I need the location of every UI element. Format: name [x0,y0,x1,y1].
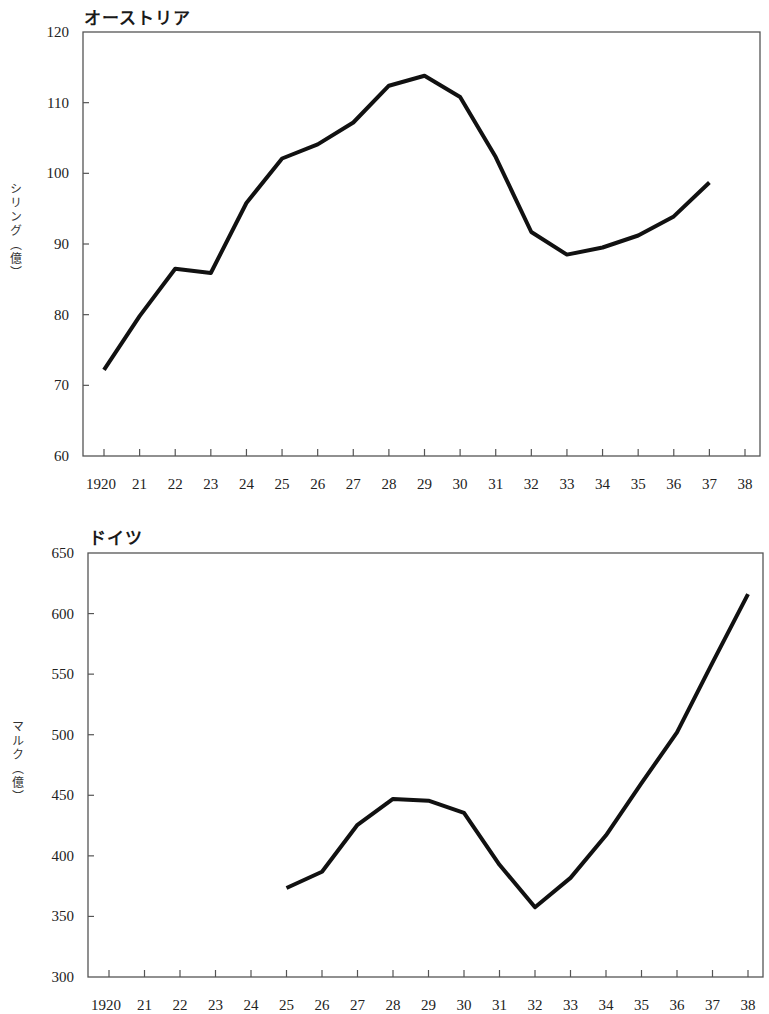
x-tick-label: 29 [417,476,432,492]
x-tick-label: 35 [634,997,649,1013]
x-tick-label: 23 [203,476,218,492]
x-tick-label: 35 [631,476,646,492]
x-tick-label: 28 [381,476,396,492]
x-tick-label: 31 [492,997,507,1013]
data-line [287,594,749,907]
x-tick-label: 22 [173,997,188,1013]
x-tick-label: 31 [488,476,503,492]
austria-plot: 6070809010011012019202122232425262728293… [0,0,769,505]
x-tick-label: 32 [528,997,543,1013]
germany-plot: 3003504004505005506006501920212223242526… [0,520,769,1014]
germany-chart: ドイツ マルク（億） 30035040045050055060065019202… [0,520,769,1014]
x-tick-label: 21 [132,476,147,492]
x-tick-label: 21 [137,997,152,1013]
y-tick-label: 110 [47,95,69,111]
x-tick-label: 25 [275,476,290,492]
y-tick-label: 550 [52,666,75,682]
y-tick-label: 400 [52,848,75,864]
x-tick-label: 1920 [91,997,121,1013]
y-tick-label: 90 [54,236,69,252]
x-tick-label: 26 [315,997,331,1013]
x-tick-label: 37 [705,997,721,1013]
y-tick-label: 100 [47,165,70,181]
y-tick-label: 350 [52,908,75,924]
x-tick-label: 1920 [86,476,116,492]
y-tick-label: 60 [54,448,69,464]
y-tick-label: 500 [52,727,75,743]
y-tick-label: 80 [54,307,69,323]
x-tick-label: 34 [595,476,611,492]
x-tick-label: 37 [702,476,718,492]
x-tick-label: 30 [453,476,468,492]
x-tick-label: 36 [666,476,682,492]
x-tick-label: 27 [346,476,362,492]
x-tick-label: 26 [310,476,326,492]
y-tick-label: 600 [52,606,75,622]
x-tick-label: 22 [168,476,183,492]
x-tick-label: 30 [457,997,472,1013]
y-tick-label: 450 [52,787,75,803]
x-tick-label: 24 [239,476,255,492]
austria-chart: オーストリア シリング（億） 6070809010011012019202122… [0,0,769,505]
plot-frame [88,553,763,977]
y-tick-label: 120 [47,24,70,40]
x-tick-label: 24 [244,997,260,1013]
data-line [104,76,709,370]
plot-frame [83,32,760,456]
x-tick-label: 29 [421,997,436,1013]
x-tick-label: 28 [386,997,401,1013]
x-tick-label: 33 [563,997,578,1013]
y-tick-label: 300 [52,969,75,985]
x-tick-label: 27 [350,997,366,1013]
x-tick-label: 25 [279,997,294,1013]
x-tick-label: 38 [741,997,756,1013]
x-tick-label: 34 [599,997,615,1013]
x-tick-label: 32 [524,476,539,492]
y-tick-label: 70 [54,377,69,393]
x-tick-label: 23 [208,997,223,1013]
x-tick-label: 38 [738,476,753,492]
x-tick-label: 33 [559,476,574,492]
x-tick-label: 36 [670,997,686,1013]
y-tick-label: 650 [52,545,75,561]
